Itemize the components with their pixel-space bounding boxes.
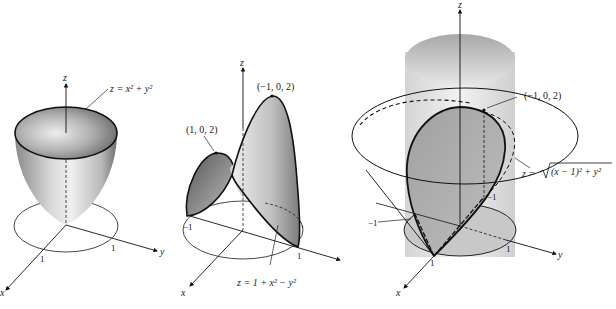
surface-label-radicand: (x − 1)² + y² bbox=[551, 166, 602, 178]
x-tick-1: 1 bbox=[430, 258, 435, 268]
y-axis-label: y bbox=[159, 246, 165, 257]
point-label-neg1-0-2: (−1, 0, 2) bbox=[257, 81, 294, 93]
x-tick-1: 1 bbox=[40, 254, 45, 264]
point-label-neg1-0-2: (−1, 0, 2) bbox=[524, 90, 561, 102]
surface-label: z = 1 + x² − y² bbox=[236, 277, 297, 288]
y-axis-label: y bbox=[557, 249, 563, 260]
figure-canvas: z x y 1 1 z = x² + y² x z bbox=[0, 0, 616, 309]
z-axis-label: z bbox=[62, 72, 67, 83]
x-axis-label: x bbox=[0, 287, 5, 298]
z-axis-label: z bbox=[239, 57, 244, 68]
surface-label-prefix: z = bbox=[521, 168, 535, 179]
neg-tick: −1 bbox=[183, 222, 193, 232]
surface-label: z = x² + y² bbox=[109, 83, 153, 94]
saddle-left-lobe bbox=[186, 153, 233, 216]
x-axis bbox=[190, 230, 243, 286]
y-tick-1: 1 bbox=[297, 251, 302, 261]
y-axis bbox=[190, 216, 340, 260]
x-axis-label: x bbox=[395, 287, 401, 298]
saddle-right-lobe bbox=[232, 96, 299, 247]
neg-tick-right: −1 bbox=[487, 192, 497, 202]
panel-paraboloid: z x y 1 1 z = x² + y² bbox=[0, 72, 165, 298]
y-tick-1: 1 bbox=[111, 243, 116, 253]
y-tick-1: 1 bbox=[506, 244, 511, 254]
x-axis-label: x bbox=[180, 287, 186, 298]
z-axis-label: z bbox=[457, 0, 462, 10]
panel-cone-cylinder: z y x (−1, 0, 2) 1 1 −1 −1 z = (x − 1)² … bbox=[352, 0, 612, 298]
neg-tick-left: −1 bbox=[368, 218, 378, 228]
panel-saddle: x z (−1, 0, 2) (1, 0, 2) −1 1 z = 1 + x²… bbox=[180, 57, 340, 298]
x-axis bbox=[6, 225, 66, 290]
point-label-1-0-2: (1, 0, 2) bbox=[186, 124, 218, 136]
